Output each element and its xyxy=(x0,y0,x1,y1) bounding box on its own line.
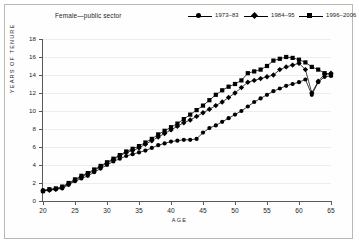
x-tick xyxy=(235,201,236,205)
x-tick-label: 60 xyxy=(289,207,309,215)
y-tick-label: 12 xyxy=(22,90,36,96)
y-tick-label: 8 xyxy=(22,126,36,132)
square-marker xyxy=(239,78,243,82)
circle-marker-icon xyxy=(196,13,201,18)
circle-marker xyxy=(201,131,205,135)
diamond-marker xyxy=(188,117,193,122)
series-diamond xyxy=(40,61,333,194)
y-tick-label: 4 xyxy=(22,162,36,168)
square-marker xyxy=(156,132,160,136)
square-marker xyxy=(297,58,301,62)
chart-header: Female—public sector 1973–83 1984–95 199… xyxy=(5,5,354,31)
x-tick xyxy=(107,201,108,205)
circle-marker xyxy=(169,140,173,144)
x-tick-label: 35 xyxy=(129,207,149,215)
square-marker xyxy=(323,71,327,75)
circle-marker xyxy=(291,82,295,86)
x-tick xyxy=(139,201,140,205)
circle-marker xyxy=(227,116,231,120)
circle-marker xyxy=(182,138,186,142)
square-marker xyxy=(207,98,211,102)
circle-marker xyxy=(188,138,192,142)
circle-marker xyxy=(150,146,154,150)
square-marker xyxy=(227,85,231,89)
square-marker xyxy=(131,147,135,151)
circle-marker xyxy=(143,149,147,153)
square-marker xyxy=(105,160,109,164)
x-tick-label: 30 xyxy=(97,207,117,215)
y-tick-label: 10 xyxy=(22,108,36,114)
y-tick-label: 6 xyxy=(22,144,36,150)
square-marker xyxy=(143,140,147,144)
x-tick xyxy=(331,201,332,205)
square-marker xyxy=(188,113,192,117)
circle-marker xyxy=(246,104,250,108)
square-marker xyxy=(233,82,237,86)
square-marker xyxy=(252,69,256,73)
square-marker xyxy=(265,64,269,68)
square-marker xyxy=(111,157,115,161)
x-tick-label: 65 xyxy=(321,207,341,215)
square-marker xyxy=(291,56,295,60)
diamond-marker xyxy=(194,114,199,119)
square-marker xyxy=(79,174,83,178)
square-marker xyxy=(163,129,167,133)
circle-marker xyxy=(265,93,269,97)
square-marker xyxy=(60,185,64,189)
circle-marker xyxy=(259,96,263,100)
square-marker xyxy=(169,125,173,129)
diamond-marker xyxy=(220,99,225,104)
circle-marker xyxy=(284,84,288,88)
square-marker xyxy=(175,122,179,126)
diamond-marker xyxy=(284,64,289,69)
square-marker xyxy=(201,104,205,108)
x-tick xyxy=(203,201,204,205)
data-series-layer xyxy=(43,39,331,201)
x-tick xyxy=(171,201,172,205)
x-tick-label: 45 xyxy=(193,207,213,215)
x-tick-label: 55 xyxy=(257,207,277,215)
series-line xyxy=(43,57,331,191)
square-marker xyxy=(73,177,77,181)
square-marker xyxy=(214,93,218,97)
circle-marker xyxy=(214,123,218,127)
legend-label: 1996–2006 xyxy=(326,12,356,18)
diamond-marker xyxy=(213,103,218,108)
square-marker xyxy=(329,73,333,77)
square-marker xyxy=(86,171,90,175)
x-tick-label: 25 xyxy=(65,207,85,215)
circle-marker xyxy=(233,113,237,117)
plot-canvas: 024681012141618 20253035404550556065 xyxy=(43,39,331,201)
diamond-marker xyxy=(207,107,212,112)
square-marker xyxy=(278,57,282,61)
y-tick-label: 14 xyxy=(22,72,36,78)
x-tick-label: 50 xyxy=(225,207,245,215)
legend-label: 1984–95 xyxy=(271,12,295,18)
series-square xyxy=(41,55,333,193)
circle-marker xyxy=(297,80,301,84)
square-marker xyxy=(316,68,320,72)
y-tick-label: 18 xyxy=(22,36,36,42)
square-marker xyxy=(310,65,314,69)
chart-frame: Female—public sector 1973–83 1984–95 199… xyxy=(4,4,353,239)
square-marker xyxy=(303,60,307,64)
circle-marker xyxy=(137,150,141,154)
diamond-marker xyxy=(290,62,295,67)
x-tick xyxy=(43,201,44,205)
square-marker xyxy=(41,189,45,193)
circle-marker xyxy=(239,109,243,113)
square-marker xyxy=(284,55,288,59)
legend-label: 1973–83 xyxy=(215,12,239,18)
square-marker xyxy=(47,187,51,191)
circle-marker xyxy=(278,86,282,90)
diamond-marker xyxy=(226,95,231,100)
square-marker xyxy=(150,137,154,141)
square-marker xyxy=(118,153,122,157)
square-marker-icon xyxy=(307,13,312,18)
diamond-marker xyxy=(252,78,257,83)
circle-marker xyxy=(252,100,256,104)
diamond-marker xyxy=(258,76,263,81)
circle-marker xyxy=(207,126,211,130)
circle-marker xyxy=(303,77,307,81)
square-marker xyxy=(92,167,96,171)
